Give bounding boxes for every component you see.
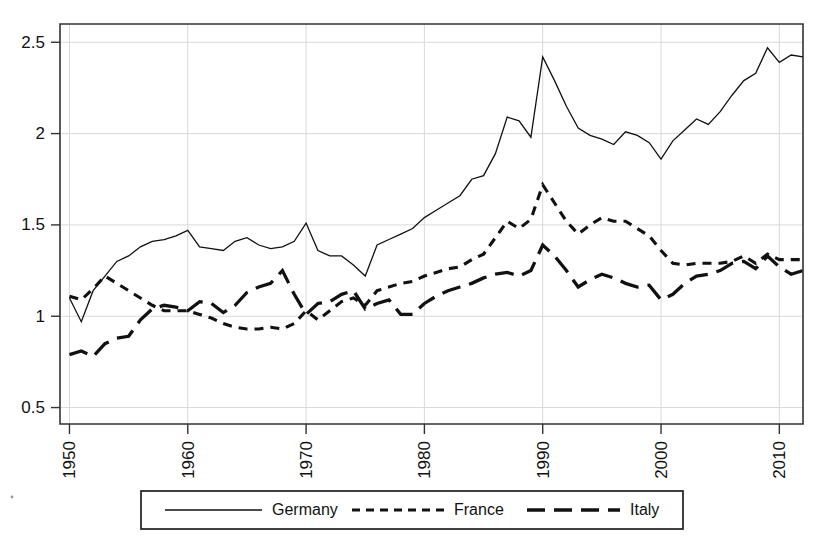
y-tick-label-0.5: 0.5 bbox=[21, 398, 45, 417]
series-line-germany bbox=[69, 48, 803, 322]
line-chart: 0.511.522.5 1950196019701980199020002010… bbox=[0, 0, 816, 554]
scan-artifact-speck bbox=[11, 496, 14, 499]
series-line-france bbox=[69, 185, 803, 329]
data-series-layer bbox=[69, 48, 803, 357]
x-tick-label-2010: 2010 bbox=[770, 441, 789, 479]
chart-legend: GermanyFranceItaly bbox=[141, 491, 683, 529]
axis-frame bbox=[60, 24, 803, 424]
x-tick-label-1970: 1970 bbox=[297, 441, 316, 479]
y-axis-ticks: 0.511.522.5 bbox=[21, 33, 60, 417]
y-tick-label-1: 1 bbox=[36, 307, 45, 326]
x-tick-label-1980: 1980 bbox=[415, 441, 434, 479]
y-tick-label-1.5: 1.5 bbox=[21, 215, 45, 234]
series-line-italy bbox=[69, 245, 803, 356]
chart-figure: 0.511.522.5 1950196019701980199020002010… bbox=[0, 0, 816, 554]
x-tick-label-1990: 1990 bbox=[534, 441, 553, 479]
x-tick-label-1960: 1960 bbox=[179, 441, 198, 479]
legend-label-germany: Germany bbox=[272, 501, 338, 518]
x-tick-label-2000: 2000 bbox=[652, 441, 671, 479]
y-tick-label-2.5: 2.5 bbox=[21, 33, 45, 52]
gridlines bbox=[60, 24, 803, 424]
y-tick-label-2: 2 bbox=[36, 124, 45, 143]
legend-label-italy: Italy bbox=[630, 501, 659, 518]
x-tick-label-1950: 1950 bbox=[60, 441, 79, 479]
legend-label-france: France bbox=[454, 501, 504, 518]
plot-frame bbox=[60, 24, 803, 424]
x-axis-ticks: 1950196019701980199020002010 bbox=[60, 424, 789, 479]
